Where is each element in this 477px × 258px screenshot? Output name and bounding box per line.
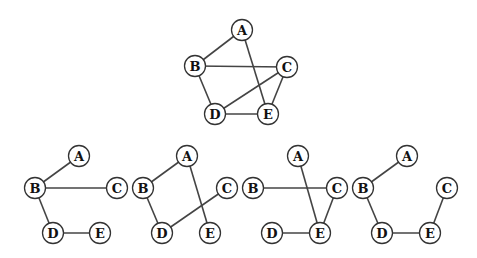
node-label: A (401, 149, 413, 164)
edge-A-E (298, 156, 320, 233)
node-label: B (248, 181, 259, 196)
node-label: B (30, 181, 41, 196)
node-label: D (266, 226, 277, 241)
node-B: B (353, 178, 374, 199)
node-label: E (315, 226, 325, 241)
node-C: C (277, 57, 298, 78)
node-D: D (152, 223, 173, 244)
node-B: B (25, 178, 46, 199)
node-label: D (376, 226, 387, 241)
node-A: A (177, 146, 198, 167)
node-E: E (90, 223, 111, 244)
node-C: C (327, 178, 348, 199)
node-B: B (133, 178, 154, 199)
node-label: C (222, 181, 232, 196)
node-label: D (209, 107, 220, 122)
node-E: E (420, 223, 441, 244)
spanning-tree-1: ABCDE (25, 146, 128, 244)
edge-A-E (187, 156, 210, 233)
edge-B-C (195, 66, 287, 67)
node-label: A (292, 149, 304, 164)
spanning-tree-2: ABCDE (133, 146, 238, 244)
node-A: A (232, 20, 253, 41)
node-C: C (217, 178, 238, 199)
node-label: B (190, 59, 201, 74)
node-label: E (205, 226, 215, 241)
node-label: A (181, 149, 193, 164)
node-label: A (73, 149, 85, 164)
node-A: A (397, 146, 418, 167)
node-label: D (156, 226, 167, 241)
node-B: B (185, 56, 206, 77)
node-label: C (112, 181, 122, 196)
node-label: B (138, 181, 149, 196)
spanning-tree-4: ABCDE (353, 146, 458, 244)
node-C: C (107, 178, 128, 199)
edge-A-E (242, 30, 268, 114)
node-label: B (358, 181, 369, 196)
node-E: E (200, 223, 221, 244)
node-B: B (243, 178, 264, 199)
node-label: D (47, 226, 58, 241)
node-label: C (442, 181, 452, 196)
node-label: C (332, 181, 342, 196)
node-label: E (95, 226, 105, 241)
node-D: D (205, 104, 226, 125)
node-E: E (258, 104, 279, 125)
node-label: E (425, 226, 435, 241)
node-D: D (43, 223, 64, 244)
node-D: D (372, 223, 393, 244)
node-label: A (236, 23, 248, 38)
node-A: A (69, 146, 90, 167)
node-label: C (282, 60, 292, 75)
node-C: C (437, 178, 458, 199)
node-D: D (262, 223, 283, 244)
original-graph: ABCDE (185, 20, 298, 125)
node-label: E (263, 107, 273, 122)
node-A: A (288, 146, 309, 167)
graph-diagram: ABCDEABCDEABCDEABCDEABCDE (0, 0, 477, 258)
spanning-tree-3: ABCDE (243, 146, 348, 244)
node-E: E (310, 223, 331, 244)
